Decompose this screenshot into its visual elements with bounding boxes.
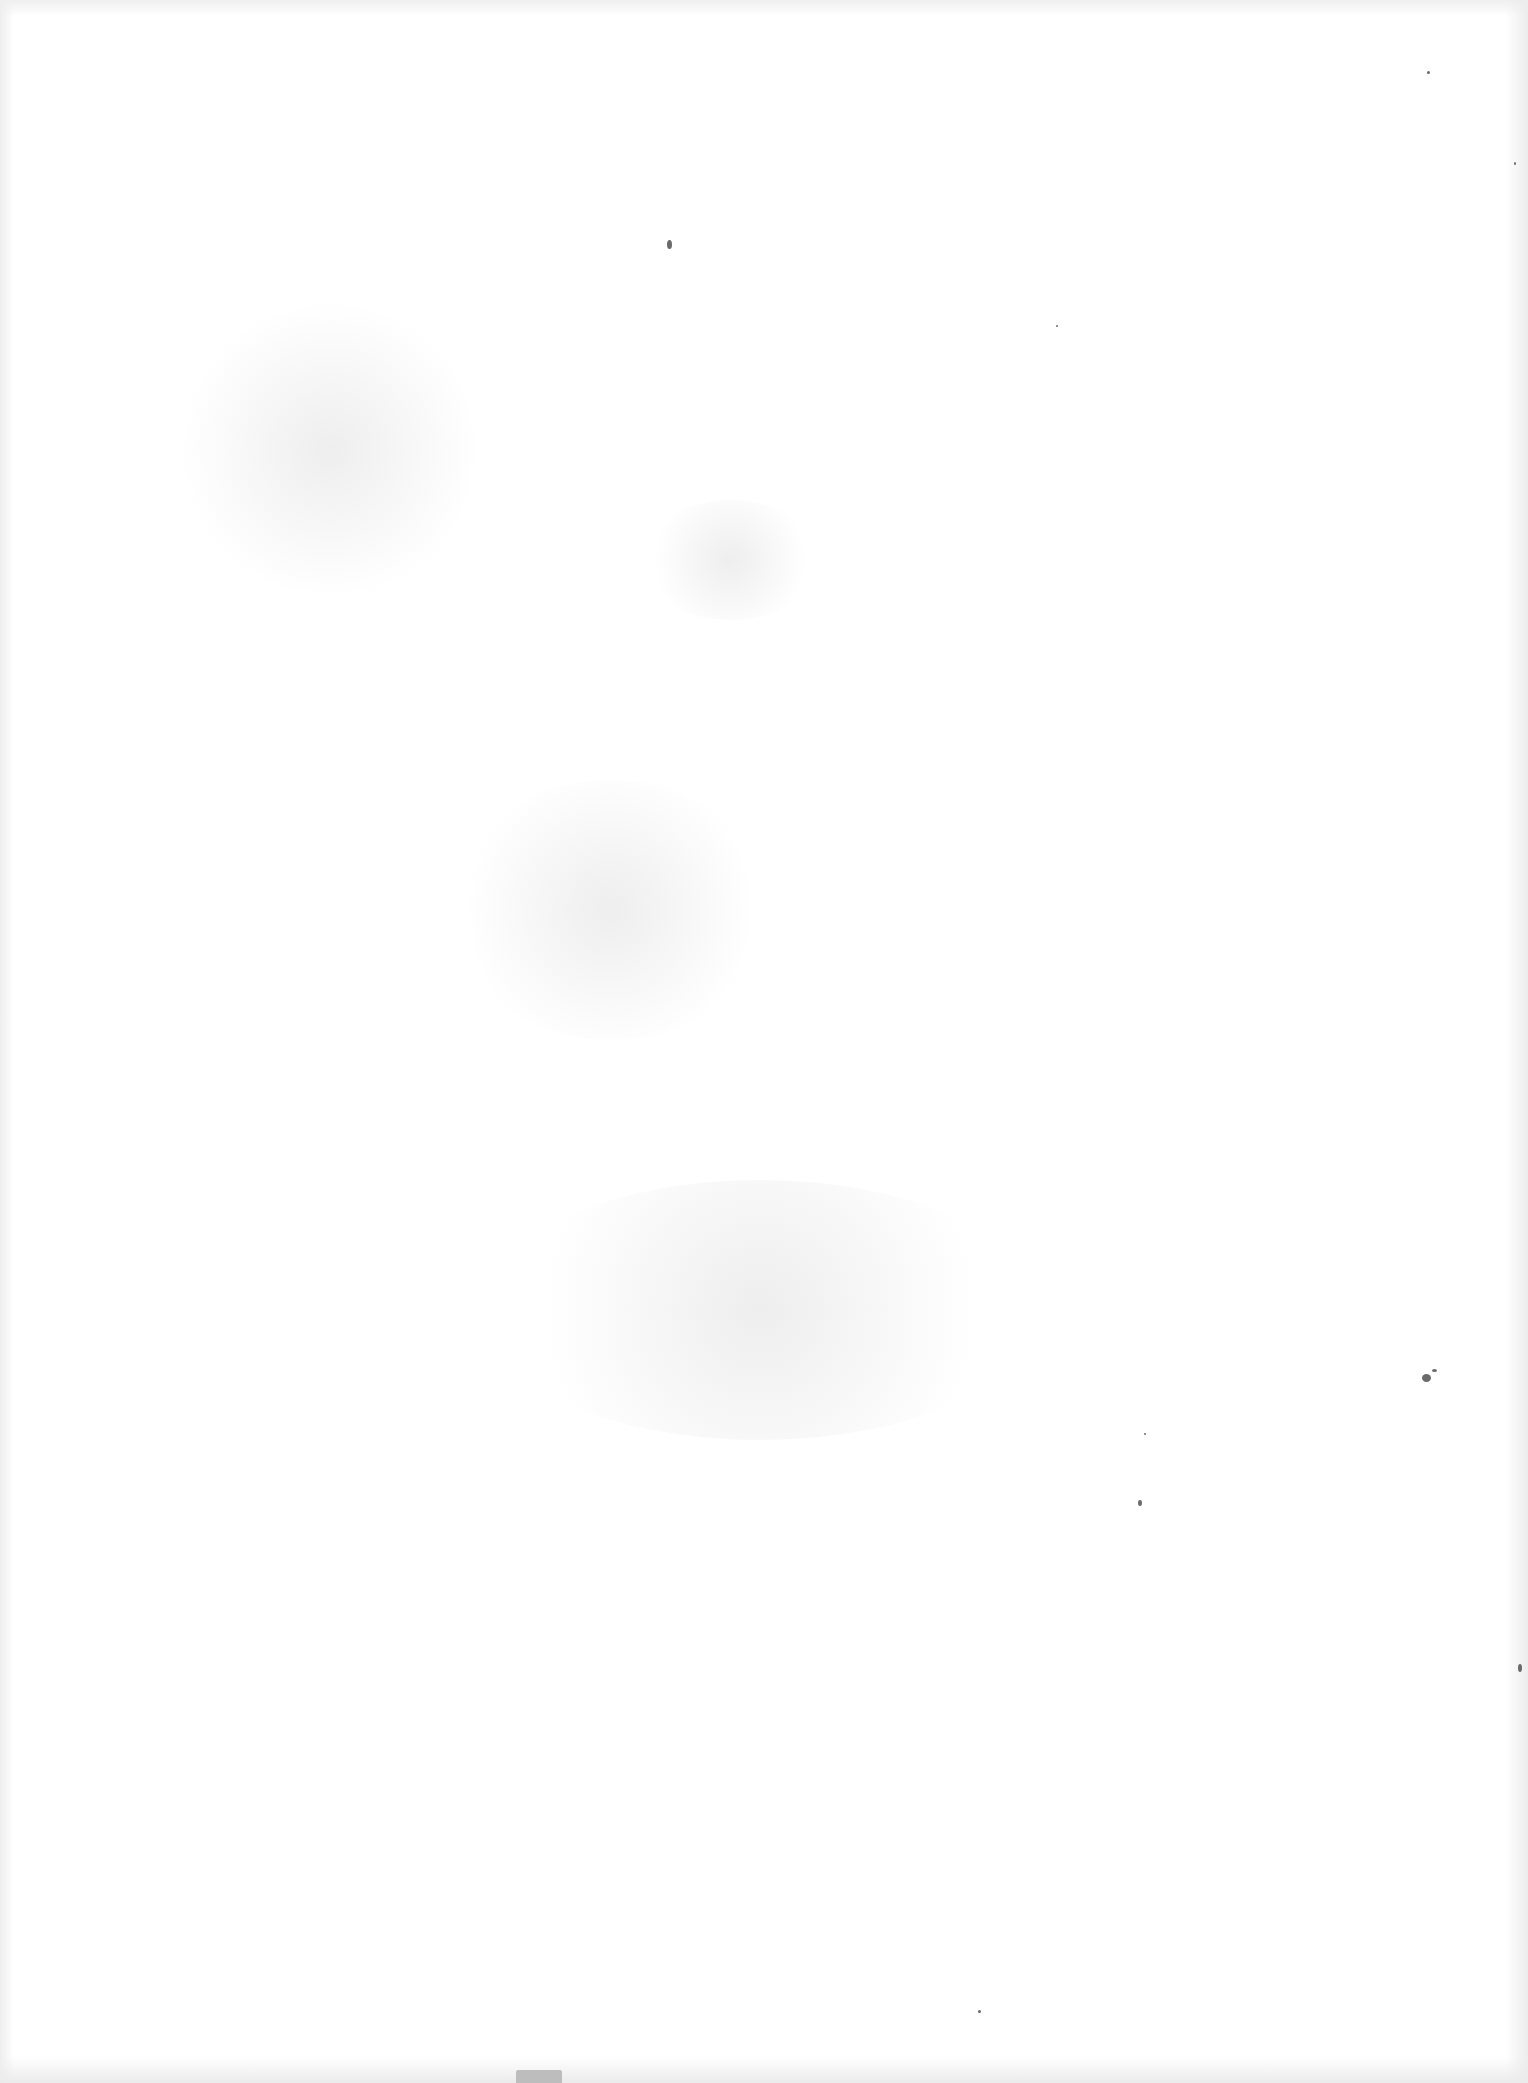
scan-noise-region [180, 300, 480, 600]
scan-noise-region [480, 1180, 1040, 1440]
scan-noise-region [640, 500, 820, 620]
dust-speck [1427, 71, 1430, 74]
scanned-page [0, 0, 1528, 2083]
dust-speck [667, 240, 672, 249]
scan-edge-left [0, 0, 14, 2083]
dust-speck [1518, 1664, 1522, 1672]
dust-speck [1056, 325, 1058, 327]
scan-noise-region [450, 780, 770, 1040]
dust-speck [978, 2010, 981, 2013]
dust-speck [1422, 1374, 1431, 1382]
binding-mark [516, 2070, 562, 2083]
scan-edge-right [1506, 0, 1528, 2083]
scan-edge-bottom [0, 2057, 1528, 2083]
dust-speck [1432, 1369, 1437, 1372]
scan-edge-top [0, 0, 1528, 16]
dust-speck [1138, 1500, 1142, 1506]
dust-speck [1144, 1433, 1146, 1435]
dust-speck [1514, 162, 1516, 165]
